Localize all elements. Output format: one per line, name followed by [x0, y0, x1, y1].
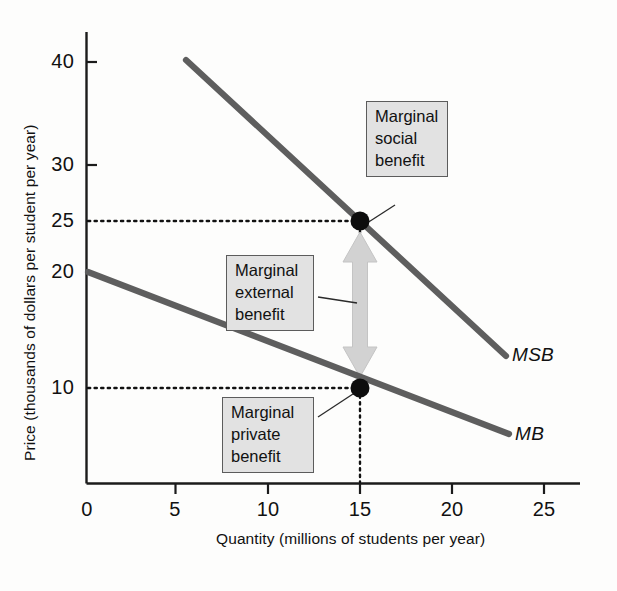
marginal-social-benefit-callout: Marginal social benefit	[366, 101, 448, 177]
economics-externality-chart: 40 30 25 20 10 0 5 10 15 20 25 Price (th…	[0, 0, 617, 591]
y-tick-label-40: 40	[30, 50, 74, 73]
external-benefit-arrow	[343, 232, 377, 377]
external-callout-leader	[318, 297, 357, 303]
msb-curve-label: MSB	[512, 344, 554, 366]
y-axis-title: Price (thousands of dollars per student …	[21, 124, 39, 461]
social-benefit-point	[351, 212, 370, 231]
x-tick-label-15: 15	[339, 498, 381, 521]
private-callout-leader	[318, 392, 356, 417]
x-tick-label-5: 5	[154, 498, 196, 521]
private-benefit-point	[351, 379, 370, 398]
mb-curve-label: MB	[515, 423, 544, 445]
x-tick-label-10: 10	[247, 498, 289, 521]
x-tick-label-25: 25	[523, 498, 565, 521]
x-tick-label-20: 20	[431, 498, 473, 521]
x-axis-title: Quantity (millions of students per year)	[216, 530, 485, 548]
x-tick-label-0: 0	[66, 498, 108, 521]
marginal-external-benefit-callout: Marginal external benefit	[226, 255, 314, 331]
marginal-private-benefit-callout: Marginal private benefit	[222, 397, 314, 473]
